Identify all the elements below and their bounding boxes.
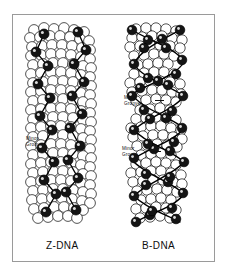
b-dna-helix-illustration [118,22,198,232]
z-dna-minor-groove-label: Minor Groove [26,136,42,147]
b-dna-spacefill-model [118,22,198,232]
b-minor-groove-leader-line [152,151,161,152]
z-dna-spacefill-model [22,22,100,232]
b-dna-minor-groove-label: Minor Groove [122,146,138,157]
dna-comparison-figure: Minor Groove Major Groove Minor Groove Z… [0,0,235,276]
z-minor-groove-line2: Groove [26,142,42,148]
z-dna-helix-illustration [22,22,100,232]
b-minor-groove-line2: Groove [122,152,138,158]
b-major-groove-line2: Groove [124,101,140,107]
b-dna-caption: B-DNA [142,240,175,251]
b-major-groove-leader-line [155,100,164,101]
b-dna-major-groove-label: Major Groove [124,95,140,106]
z-dna-caption: Z-DNA [46,240,79,251]
